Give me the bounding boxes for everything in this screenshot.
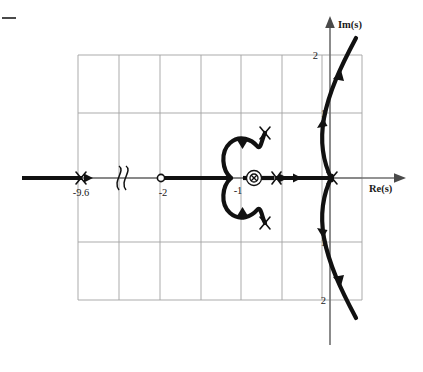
- y-tick-label-2-neg: 2: [321, 295, 326, 306]
- label-neg-9-6: -9.6: [73, 187, 90, 198]
- coincident-marker-neg-1: [247, 171, 262, 186]
- label-neg-1: -1: [234, 185, 243, 196]
- x-axis-label: Re(s): [369, 183, 393, 195]
- y-tick-label-2-pos: 2: [313, 50, 318, 61]
- root-locus-canvas: Re(s) Im(s) 2 1 1 2: [0, 0, 423, 372]
- y-axis-label: Im(s): [338, 19, 362, 31]
- root-locus-figure: Re(s) Im(s) 2 1 1 2: [0, 0, 423, 372]
- zero-marker-neg-2: [157, 174, 164, 181]
- label-neg-2: -2: [159, 187, 168, 198]
- figure-background: [0, 0, 423, 372]
